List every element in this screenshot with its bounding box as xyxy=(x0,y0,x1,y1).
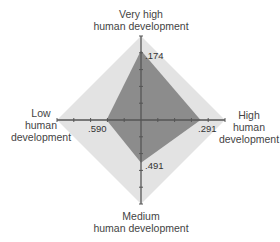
axis-label-line: human development xyxy=(90,20,192,32)
axis-label-line: human xyxy=(214,121,280,133)
axis-label-medium: Medium human development xyxy=(90,210,192,234)
axis-label-very-high: Very high human development xyxy=(90,8,192,32)
axis-label-line: development xyxy=(214,133,280,145)
value-label-high: .291 xyxy=(198,124,217,134)
axis-label-high: High human development xyxy=(214,109,280,145)
axis-label-line: Low xyxy=(8,107,74,119)
axis-label-line: High xyxy=(214,109,280,121)
axis-label-line: Medium xyxy=(90,210,192,222)
axis-label-line: human xyxy=(8,119,74,131)
value-label-medium: .491 xyxy=(145,161,164,171)
axes xyxy=(57,36,225,204)
value-label-very-high: .174 xyxy=(145,51,164,61)
axis-label-low: Low human development xyxy=(8,107,74,143)
axis-label-line: human development xyxy=(90,222,192,234)
axis-label-line: development xyxy=(8,131,74,143)
value-label-low: .590 xyxy=(88,124,107,134)
axis-label-line: Very high xyxy=(90,8,192,20)
